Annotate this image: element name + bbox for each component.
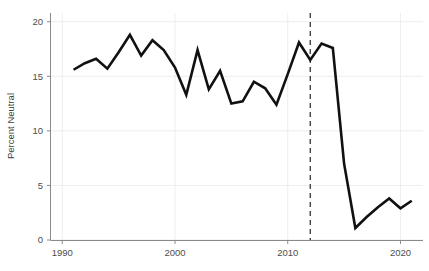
- x-tick-label: 1990: [52, 247, 73, 258]
- y-axis-title: Percent Neutral: [5, 93, 16, 159]
- y-tick-label: 15: [32, 71, 43, 82]
- y-tick-label: 20: [32, 16, 43, 27]
- y-axis-ticks: 05101520: [32, 16, 51, 245]
- y-tick-label: 5: [38, 180, 43, 191]
- x-grid-lines: [62, 13, 400, 240]
- y-tick-label: 10: [32, 125, 43, 136]
- chart-figure: 05101520 1990200020102020 Percent Neutra…: [0, 0, 429, 271]
- x-tick-label: 2000: [164, 247, 185, 258]
- x-tick-label: 2020: [390, 247, 411, 258]
- x-axis-ticks: 1990200020102020: [52, 240, 411, 258]
- line-chart: 05101520 1990200020102020 Percent Neutra…: [0, 0, 429, 271]
- data-series-line: [74, 35, 412, 228]
- x-tick-label: 2010: [277, 247, 298, 258]
- y-tick-label: 0: [38, 234, 43, 245]
- grid-lines: [51, 22, 423, 240]
